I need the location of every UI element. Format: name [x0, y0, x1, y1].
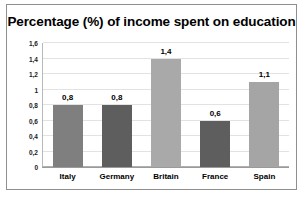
bar-value-label: 0,8	[62, 93, 73, 102]
y-tick-label: 0,2	[29, 148, 38, 155]
x-tick-label: Germany	[99, 172, 134, 181]
y-tick-label: 1,4	[29, 55, 38, 62]
y-tick-label: 0,4	[29, 133, 38, 140]
bar-group[interactable]: 0,6	[191, 43, 240, 167]
bar-value-label: 1,1	[259, 70, 270, 79]
plot-area: 0,80,81,40,61,1	[43, 43, 289, 167]
bar-value-label: 0,8	[111, 93, 122, 102]
bar[interactable]	[53, 105, 83, 167]
bar-group[interactable]: 1,4	[141, 43, 190, 167]
bar-value-label: 0,6	[210, 109, 221, 118]
y-tick-label: 0	[34, 164, 38, 171]
bar[interactable]	[102, 105, 132, 167]
bar-group[interactable]: 1,1	[240, 43, 289, 167]
y-tick-label: 1	[34, 86, 38, 93]
chart-frame: Percentage (%) of income spent on educat…	[6, 4, 297, 190]
x-tick-label: Italy	[60, 172, 76, 181]
bar-series: 0,80,81,40,61,1	[43, 43, 289, 167]
x-tick-label: Spain	[254, 172, 276, 181]
bar-group[interactable]: 0,8	[92, 43, 141, 167]
x-axis-line	[42, 167, 289, 168]
y-tick-label: 0,6	[29, 117, 38, 124]
bar[interactable]	[200, 121, 230, 168]
bar-group[interactable]: 0,8	[43, 43, 92, 167]
y-tick-label: 1,2	[29, 71, 38, 78]
y-axis-tick-labels: 00,20,40,60,811,21,41,6	[7, 43, 41, 167]
bar[interactable]	[249, 82, 279, 167]
bar-value-label: 1,4	[160, 47, 171, 56]
x-tick-label: France	[202, 172, 228, 181]
chart-title: Percentage (%) of income spent on educat…	[7, 14, 296, 29]
y-tick-label: 1,6	[29, 40, 38, 47]
bar[interactable]	[151, 59, 181, 168]
y-tick-label: 0,8	[29, 102, 38, 109]
x-tick-label: Britain	[153, 172, 178, 181]
x-axis-tick-labels: ItalyGermanyBritainFranceSpain	[43, 172, 289, 188]
